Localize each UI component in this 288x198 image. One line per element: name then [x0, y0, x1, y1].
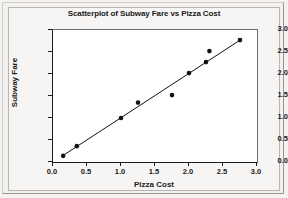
data-point [207, 49, 212, 54]
x-tick-label: 1.5 [149, 167, 159, 176]
x-tick-label: 0.5 [81, 167, 91, 176]
data-point [238, 38, 243, 43]
x-tick-label: 3.0 [251, 167, 261, 176]
scatter-plot-canvas [53, 30, 257, 162]
x-tick-label: 2.0 [183, 167, 193, 176]
x-axis-title: Pizza Cost [52, 180, 256, 189]
regression-line [62, 39, 242, 156]
data-point [187, 71, 192, 76]
data-point [61, 154, 66, 159]
chart-title: Scatterplot of Subway Fare vs Pizza Cost [0, 9, 288, 18]
x-tick-label: 1.0 [115, 167, 125, 176]
data-point [119, 116, 124, 121]
chart-screenshot: Scatterplot of Subway Fare vs Pizza Cost… [0, 0, 288, 198]
x-tick-label: 2.5 [217, 167, 227, 176]
x-tick-label: 0.0 [47, 167, 57, 176]
data-point [170, 93, 175, 98]
data-point [75, 144, 80, 149]
y-axis-title: Subway Fare [10, 43, 19, 123]
plot-area [52, 29, 258, 163]
data-point [136, 100, 141, 105]
data-point [204, 60, 209, 65]
